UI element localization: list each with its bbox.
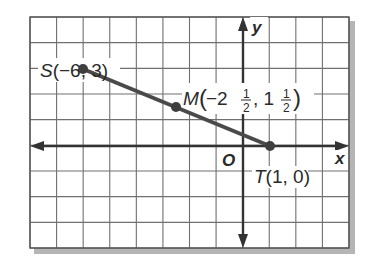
x-axis-label: x	[334, 149, 346, 168]
point-m-close: )	[293, 84, 301, 111]
point-s-letter: S	[40, 60, 53, 81]
point-t-coords: (1, 0)	[266, 166, 310, 187]
y-axis-label: y	[251, 18, 263, 37]
point-m-whole-x: −2	[206, 88, 228, 109]
point-t-label: T(1, 0)	[254, 166, 310, 187]
point-m-frac-y-den: 2	[283, 101, 290, 115]
point-t	[265, 141, 275, 151]
coordinate-plane-figure: y O x S(−6, 3) M ( −2 1 2 , 1 1 2 ) T(1,…	[0, 0, 378, 267]
origin-label: O	[222, 151, 235, 170]
point-m-frac-x-den: 2	[243, 101, 250, 115]
point-m-frac-y-num: 1	[283, 87, 290, 101]
point-s-coords: (−6, 3)	[53, 60, 108, 81]
point-m-letter: M	[183, 88, 199, 109]
point-m	[171, 102, 181, 112]
point-s-label: S(−6, 3)	[40, 60, 108, 81]
point-m-frac-x-num: 1	[243, 87, 250, 101]
coordinate-plane-svg: y O x S(−6, 3) M ( −2 1 2 , 1 1 2 ) T(1,…	[0, 0, 378, 267]
point-m-comma: , 1	[253, 88, 274, 109]
